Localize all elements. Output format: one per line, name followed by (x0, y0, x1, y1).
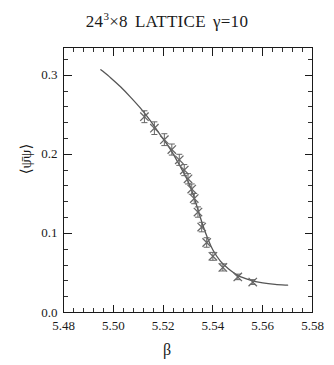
title-temporal-extent: ×8 (109, 12, 128, 31)
x-tick-label: 5.58 (301, 318, 324, 334)
page-title: 243×8LATTICEγ=10 (0, 10, 334, 32)
x-tick-label: 5.56 (251, 318, 274, 334)
title-gamma: γ=10 (213, 12, 248, 31)
title-lattice-word: LATTICE (135, 12, 206, 31)
x-axis-label: β (0, 341, 334, 359)
title-lattice-size: 24 (86, 12, 104, 31)
chart-figure: 243×8LATTICEγ=10 5.485.505.525.545.565.5… (0, 0, 334, 365)
x-tick-label: 5.54 (202, 318, 225, 334)
y-axis-label: ⟨ψ̄ψ⟩ (17, 139, 35, 179)
fit-curve-path (101, 70, 288, 286)
y-tick-label: 0.0 (20, 305, 58, 321)
x-tick-label: 5.52 (152, 318, 175, 334)
x-tick-label: 5.50 (102, 318, 125, 334)
y-tick-label: 0.3 (20, 67, 58, 83)
error-bars (141, 111, 255, 285)
data-markers (140, 113, 257, 287)
y-tick-label: 0.1 (20, 225, 58, 241)
fit-curve (101, 70, 288, 286)
